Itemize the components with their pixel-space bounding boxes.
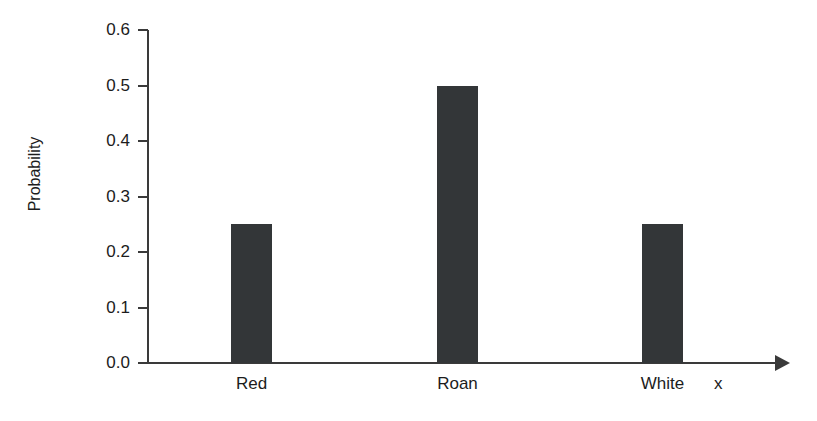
y-axis-tick: [138, 251, 148, 253]
y-axis-tick: [138, 140, 148, 142]
plot-area: 0.60.50.40.30.20.10.0 RedRoanWhite Proba…: [0, 0, 817, 421]
bar-white: [642, 224, 683, 363]
y-axis-tick-label-text: 0.4: [106, 132, 130, 149]
y-axis-title: Probability: [26, 109, 44, 239]
x-axis-category-label: Roan: [388, 374, 528, 394]
y-axis-tick: [138, 85, 148, 87]
bar-roan: [437, 86, 478, 364]
y-axis-tick: [138, 29, 148, 31]
x-axis-category-label: White: [593, 374, 733, 394]
y-axis-tick: [138, 196, 148, 198]
y-axis-tick-label-text: 0.0: [106, 354, 130, 371]
bar-red: [231, 224, 272, 363]
y-axis-tick-label-text: 0.5: [106, 77, 130, 94]
x-axis-category-label: Red: [182, 374, 322, 394]
bar-chart-figure: 0.60.50.40.30.20.10.0 RedRoanWhite Proba…: [0, 0, 817, 421]
y-axis-tick: [138, 307, 148, 309]
y-axis-tick-label-text: 0.3: [106, 188, 130, 205]
x-axis-arrow-icon: [775, 355, 790, 371]
y-axis-tick-label-text: 0.2: [106, 243, 130, 260]
y-axis-tick-label-text: 0.6: [106, 21, 130, 38]
y-axis-tick-label-text: 0.1: [106, 299, 130, 316]
x-axis-title: x: [714, 374, 723, 394]
